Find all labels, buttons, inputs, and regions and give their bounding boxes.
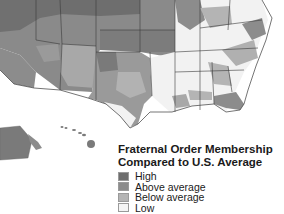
kansas-oklahoma-high bbox=[100, 30, 175, 52]
legend-item-below-average: Below average bbox=[118, 192, 284, 203]
legend-title-line2: Compared to U.S. Average bbox=[118, 156, 284, 169]
legend-item-high: High bbox=[118, 171, 284, 182]
map-legend: Fraternal Order Membership Compared to U… bbox=[118, 143, 284, 213]
legend-label-high: High bbox=[135, 171, 157, 181]
high-region-north-plains bbox=[60, 0, 140, 16]
legend-swatch-high bbox=[118, 172, 129, 181]
gulf-of-mexico bbox=[138, 104, 250, 140]
legend-item-low: Low bbox=[118, 203, 284, 214]
legend-swatch-above-average bbox=[118, 182, 129, 191]
legend-swatch-low bbox=[118, 203, 129, 212]
legend-title-line1: Fraternal Order Membership bbox=[118, 143, 284, 156]
legend-label-low: Low bbox=[135, 203, 154, 213]
legend-label-below-average: Below average bbox=[135, 192, 204, 202]
legend-swatch-below-average bbox=[118, 193, 129, 202]
below-avg-southwest bbox=[60, 44, 96, 88]
legend-label-above-average: Above average bbox=[135, 182, 206, 192]
